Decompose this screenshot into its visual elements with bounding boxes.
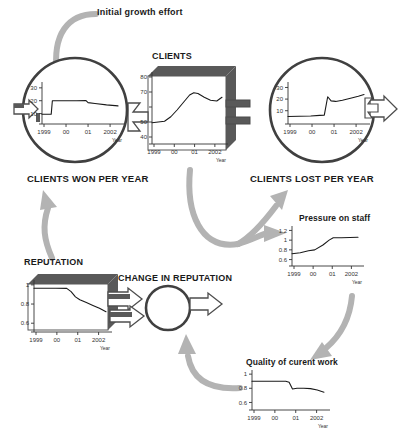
x-tick-label: 00 — [171, 149, 178, 155]
valve-clients-lost — [270, 58, 397, 162]
arrowhead-reputation-to-clients-won — [40, 190, 57, 210]
valve-change-in-reputation — [146, 286, 222, 330]
label-clients-won-per-year: CLIENTS WON PER YEAR — [27, 174, 149, 184]
chart-pressure: 0.60.811.2199900012002Year — [279, 226, 364, 285]
x-tick-label: 00 — [63, 129, 70, 135]
x-tick-label: 01 — [85, 129, 92, 135]
pipe-fill-b — [110, 312, 132, 317]
axis-label-year: Year — [216, 157, 226, 163]
x-tick-label: 1999 — [283, 129, 297, 135]
y-tick-label: 20 — [276, 96, 283, 102]
chart-quality: 0.60.81199900012002Year — [239, 370, 330, 429]
y-tick-label: 0.8 — [21, 301, 30, 307]
x-tick-label: 1999 — [37, 129, 51, 135]
y-tick-label: 0.8 — [239, 385, 248, 391]
arrowhead-to-change-reputation — [178, 334, 196, 354]
connector-reputation-to-clients-won — [45, 208, 52, 258]
y-tick-label: 0.6 — [239, 400, 248, 406]
x-tick-label: 00 — [310, 271, 317, 277]
systems-diagram: 102030199900012002Year405070801999000120… — [0, 0, 400, 437]
x-tick-label: 2002 — [349, 129, 363, 135]
y-tick-label: 70 — [140, 89, 147, 95]
x-tick-label: 2002 — [310, 415, 324, 421]
y-tick-label: 0.6 — [279, 257, 288, 263]
x-tick-label: 2002 — [92, 337, 106, 343]
x-tick-label: 01 — [292, 415, 299, 421]
stock-clients — [148, 66, 236, 150]
data-series-line — [252, 381, 324, 392]
y-tick-label: 0.6 — [21, 320, 30, 326]
connector-clients-to-clients-lost — [189, 170, 238, 245]
y-tick-label: 1 — [284, 237, 288, 243]
connector-quality-to-change-reputation — [188, 356, 240, 388]
x-tick-label: 00 — [309, 129, 316, 135]
x-tick-label: 2002 — [208, 149, 222, 155]
label-clients-lost-per-year: CLIENTS LOST PER YEAR — [250, 174, 374, 184]
data-series-line — [292, 237, 358, 254]
x-tick-label: 1999 — [287, 271, 301, 277]
pipe-stub-change-rep-out — [190, 293, 222, 315]
y-tick-label: 1 — [244, 371, 248, 377]
axis-label-year: Year — [352, 279, 362, 285]
x-tick-label: 00 — [272, 415, 279, 421]
y-tick-label: 80 — [140, 74, 147, 80]
x-tick-label: 01 — [74, 337, 81, 343]
x-tick-label: 2002 — [103, 129, 117, 135]
y-tick-label: 0.8 — [279, 247, 288, 253]
x-tick-label: 1999 — [29, 337, 43, 343]
label-quality-of-current-work: Quality of curent work — [246, 358, 338, 367]
label-clients: CLIENTS — [152, 52, 192, 61]
axis-label-year: Year — [358, 137, 368, 143]
connector-pressure-to-quality — [326, 296, 352, 348]
label-pressure-on-staff: Pressure on staff — [299, 214, 370, 223]
y-tick-label: 30 — [30, 85, 37, 91]
label-change-in-reputation: CHANGE IN REPUTATION — [118, 274, 232, 283]
axis-label-year: Year — [100, 345, 110, 351]
y-tick-label: 10 — [30, 111, 37, 117]
pipe-fill-a — [108, 294, 130, 299]
y-tick-label: 10 — [276, 108, 283, 114]
x-tick-label: 00 — [54, 337, 61, 343]
y-tick-label: 1.2 — [279, 228, 288, 234]
annotation-initial-growth-effort: Initial growth effort — [97, 8, 183, 17]
x-tick-label: 2002 — [345, 271, 359, 277]
x-tick-label: 01 — [331, 129, 338, 135]
x-tick-label: 1999 — [147, 149, 161, 155]
pipe-inflow-clients — [128, 103, 148, 131]
y-tick-label: 30 — [276, 85, 283, 91]
label-reputation: REPUTATION — [24, 258, 83, 267]
axis-label-year: Year — [318, 423, 328, 429]
axis-label-year: Year — [112, 137, 122, 143]
x-tick-label: 01 — [329, 271, 336, 277]
y-tick-label: 50 — [140, 119, 147, 125]
x-tick-label: 1999 — [247, 415, 261, 421]
x-tick-label: 01 — [191, 149, 198, 155]
y-tick-label: 20 — [30, 98, 37, 104]
stock-reputation — [28, 274, 118, 330]
y-tick-label: 40 — [140, 134, 147, 140]
